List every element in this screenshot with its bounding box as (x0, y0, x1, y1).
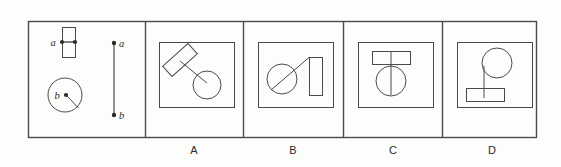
option-b-circle (267, 64, 297, 94)
option-c-inner-box (359, 43, 434, 108)
dot-b-center-icon (64, 93, 68, 97)
reference-panel: a b a b (48, 28, 124, 121)
outer-frame (29, 22, 537, 138)
axis-endpoint-b-dot-icon (112, 113, 116, 117)
reference-object-a: a (50, 28, 77, 58)
rotation-problem-figure: a b a b (0, 0, 561, 167)
option-b-connector (271, 58, 309, 91)
reference-radius-b (66, 95, 79, 108)
reference-object-b: b (48, 78, 82, 112)
option-label-a: A (179, 144, 209, 156)
dot-a-left-icon (60, 40, 64, 44)
figure-root: a b a b (0, 0, 561, 167)
option-a-circle (193, 71, 221, 99)
option-b-rect (310, 58, 323, 96)
axis-label-a: a (119, 38, 124, 49)
option-label-d: D (477, 144, 507, 156)
reference-label-b: b (54, 90, 59, 101)
option-d-rect (467, 89, 505, 102)
option-a-rotated-rect (163, 43, 198, 76)
option-b-panel[interactable] (259, 43, 334, 108)
axis-label-b: b (119, 110, 124, 121)
option-a-panel[interactable] (160, 43, 235, 108)
option-d-inner-box (458, 43, 533, 108)
option-c-panel[interactable] (359, 43, 434, 108)
reference-axis-segment: a b (112, 38, 124, 121)
option-d-panel[interactable] (458, 43, 533, 108)
option-label-c: C (378, 144, 408, 156)
option-d-circle (482, 48, 512, 78)
reference-label-a: a (50, 37, 55, 48)
dot-a-right-icon (73, 40, 77, 44)
axis-endpoint-a-dot-icon (112, 41, 116, 45)
option-label-b: B (278, 144, 308, 156)
